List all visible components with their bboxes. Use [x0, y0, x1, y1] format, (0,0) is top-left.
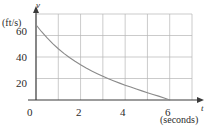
x-tick-label-4: 4 — [120, 107, 126, 118]
y-tick-label-20: 20 — [16, 78, 27, 89]
y-tick-label-40: 40 — [16, 52, 27, 63]
y-axis-variable-label: v — [36, 1, 40, 10]
x-tick-label-6: 6 — [165, 107, 171, 118]
velocity-time-graph-figure: (ft/s) v t (seconds) 60 40 20 0 2 4 6 — [0, 0, 215, 130]
x-axis-variable-label: t — [201, 104, 204, 113]
x-tick-label-0: 0 — [27, 107, 33, 118]
y-tick-label-60: 60 — [16, 26, 27, 37]
axis-lines — [28, 6, 204, 103]
x-tick-label-2: 2 — [76, 107, 82, 118]
grid-lines — [36, 14, 192, 100]
